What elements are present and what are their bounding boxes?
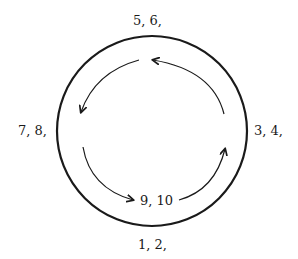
label-center-bottom: 9, 10 [140, 194, 173, 207]
label-left: 7, 8, [18, 124, 47, 137]
arrow-top-to-left [81, 60, 139, 112]
arrow-right-to-top [153, 60, 224, 114]
arrow-left-to-bottom [83, 147, 133, 200]
label-top: 5, 6, [133, 14, 162, 27]
cycle-diagram: 5, 6, 7, 8, 3, 4, 1, 2, 9, 10 [0, 0, 298, 259]
arrow-bottom-to-right [179, 149, 225, 200]
label-right: 3, 4, [254, 124, 283, 137]
label-bottom: 1, 2, [138, 238, 167, 251]
